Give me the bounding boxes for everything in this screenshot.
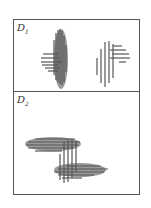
diagram-graphics: [0, 0, 151, 208]
d1-right-cluster: [97, 41, 130, 87]
d2-lower-cluster: [54, 163, 108, 178]
d1-left-cluster: [41, 29, 68, 89]
